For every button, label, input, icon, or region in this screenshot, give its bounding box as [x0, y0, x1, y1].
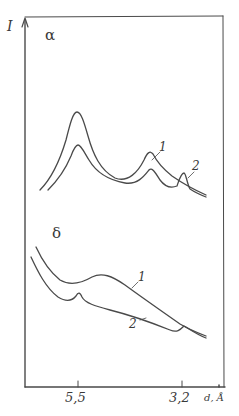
panel-label-alpha: α	[45, 28, 55, 43]
curve-delta-2	[31, 257, 206, 338]
x-tick-label-3-2: 3,2	[169, 391, 190, 404]
panel-label-delta: δ	[52, 226, 61, 241]
x-tick-label-5-5: 5,5	[65, 391, 86, 404]
x-axis-unit-label: d, Å	[204, 393, 224, 403]
xrd-figure: I α δ 1 2 1 2 5,5 3,2 d, Å	[0, 0, 239, 416]
curve-label-delta-2: 2	[129, 318, 137, 330]
curve-label-alpha-1: 1	[159, 141, 167, 153]
curve-label-delta-1: 1	[138, 271, 146, 283]
curve-alpha-2	[48, 145, 206, 197]
frame-top	[25, 16, 223, 17]
y-axis-label: I	[7, 19, 13, 33]
curve-delta-1	[36, 247, 206, 336]
curve-label-alpha-2: 2	[192, 160, 200, 172]
frame-right	[223, 16, 224, 387]
plot-area	[0, 0, 239, 416]
